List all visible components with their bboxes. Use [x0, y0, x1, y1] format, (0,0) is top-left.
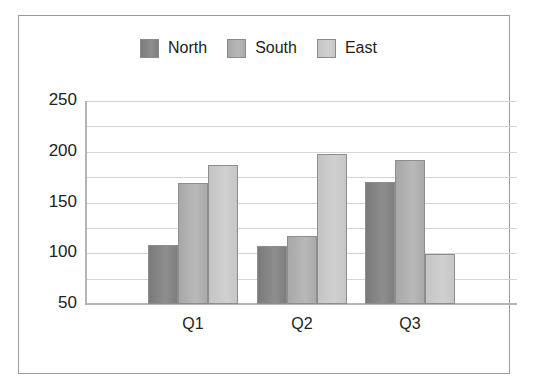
- legend: NorthSouthEast: [140, 37, 397, 59]
- legend-swatch: [227, 39, 246, 58]
- bar-q3-north: [365, 182, 395, 304]
- bar-q1-south: [178, 183, 208, 304]
- y-tick-label: 150: [22, 192, 77, 212]
- x-tick-label: Q2: [272, 315, 332, 333]
- gridline: [85, 177, 517, 178]
- x-tick-label: Q3: [380, 315, 440, 333]
- gridline: [85, 152, 517, 153]
- y-tick-label: 250: [22, 90, 77, 110]
- bar-q2-north: [257, 246, 287, 304]
- legend-label: South: [255, 39, 297, 57]
- gridline: [85, 228, 517, 229]
- y-tick-label: 50: [22, 293, 77, 313]
- legend-item-north: North: [140, 39, 207, 58]
- bar-q1-north: [148, 245, 178, 304]
- bar-q1-east: [208, 165, 238, 304]
- y-tick-label: 200: [22, 141, 77, 161]
- bar-q2-east: [317, 154, 347, 304]
- legend-label: East: [345, 39, 377, 57]
- legend-label: North: [168, 39, 207, 57]
- y-tick-label: 100: [22, 242, 77, 262]
- legend-item-east: East: [317, 39, 377, 58]
- legend-item-south: South: [227, 39, 297, 58]
- y-axis: [85, 101, 87, 305]
- legend-swatch: [317, 39, 336, 58]
- bar-q3-east: [425, 254, 455, 304]
- gridline: [85, 203, 517, 204]
- x-tick-label: Q1: [163, 315, 223, 333]
- gridline: [85, 101, 517, 102]
- gridline: [85, 126, 517, 127]
- bar-q3-south: [395, 160, 425, 304]
- legend-swatch: [140, 39, 159, 58]
- bar-q2-south: [287, 236, 317, 304]
